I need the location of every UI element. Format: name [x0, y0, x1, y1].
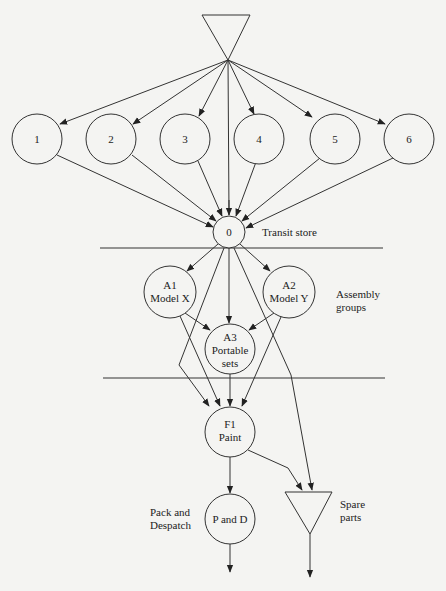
supplier-5-label: 5 [332, 133, 338, 145]
a1-line2: Model X [150, 292, 189, 304]
spare-side-label-2: parts [340, 511, 361, 523]
source-triangle [202, 15, 250, 60]
spare-parts-triangle [285, 492, 332, 534]
a3-line2: Portable [212, 344, 249, 356]
process-flow-diagram: 1 2 3 4 5 6 0 A1 Model X A2 Model Y A3 P… [0, 0, 446, 591]
pack-label: P and D [212, 513, 247, 525]
transit-side-label: Transit store [262, 226, 317, 238]
pack-side-label-2: Despatch [150, 519, 191, 531]
assembly-side-label-1: Assembly [336, 288, 381, 300]
a3-line3: sets [222, 357, 239, 369]
supplier-4-label: 4 [256, 133, 262, 145]
supplier-2-label: 2 [108, 133, 114, 145]
spare-side-label-1: Spare [340, 498, 365, 510]
supplier-6-label: 6 [406, 133, 412, 145]
paint-line1: F1 [224, 418, 236, 430]
assembly-side-label-2: groups [336, 301, 366, 313]
a3-line1: A3 [223, 331, 237, 343]
supplier-nodes [12, 114, 434, 164]
a1-line1: A1 [163, 279, 176, 291]
supplier-3-label: 3 [182, 133, 188, 145]
a2-line1: A2 [282, 279, 295, 291]
paint-outflow-arrows [230, 450, 302, 493]
paint-line2: Paint [219, 431, 242, 443]
a2-line2: Model Y [269, 292, 308, 304]
transit-label: 0 [226, 226, 232, 238]
supplier-1-label: 1 [34, 133, 40, 145]
pack-side-label-1: Pack and [150, 506, 191, 518]
